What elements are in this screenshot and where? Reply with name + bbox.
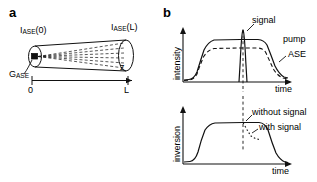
series-pump-line xyxy=(184,40,288,81)
series-with-signal-line xyxy=(243,123,260,140)
series-label-ase: ASE xyxy=(288,50,306,59)
ase-label-leader xyxy=(279,56,286,62)
inversion-time-axis-label: time xyxy=(272,167,289,176)
inversion-axis-label: inversion xyxy=(172,126,182,162)
inversion-y-arrowhead xyxy=(180,106,186,113)
with-signal-leader xyxy=(252,129,258,133)
intensity-y-arrowhead xyxy=(180,27,186,34)
intensity-axis-label: intensity xyxy=(172,47,182,80)
series-label-without-signal: without signal xyxy=(252,108,307,117)
panel-b-drawing xyxy=(0,0,317,182)
series-label-pump: pump xyxy=(283,35,306,44)
series-label-signal: signal xyxy=(252,16,276,25)
intensity-time-axis-label: time xyxy=(275,85,292,94)
series-label-with-signal: with signal xyxy=(259,123,301,132)
figure-root: a xyxy=(0,0,317,182)
intensity-axes xyxy=(180,27,292,85)
